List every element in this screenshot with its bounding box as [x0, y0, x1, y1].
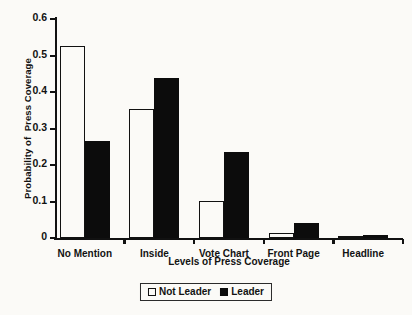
y-tick-label: 0.5	[32, 48, 47, 60]
bar-headline-not-leader	[338, 236, 363, 238]
bar-no-mention-not-leader	[60, 46, 85, 238]
legend-entry: Not Leader	[148, 286, 211, 297]
x-axis-title: Levels of Press Coverage	[55, 256, 403, 267]
y-axis-line	[55, 17, 57, 238]
bar-inside-not-leader	[129, 109, 154, 238]
bar-vote-chart-leader	[224, 152, 249, 238]
x-tick	[402, 239, 404, 244]
legend-label: Not Leader	[159, 286, 211, 297]
legend-label: Leader	[231, 286, 264, 297]
filled-square-icon	[220, 288, 228, 296]
chart-legend: Not LeaderLeader	[140, 283, 272, 301]
y-tick-label: 0.6	[32, 11, 47, 23]
y-tick: 0.2	[50, 164, 55, 166]
y-tick: 0.4	[50, 91, 55, 93]
x-tick	[123, 239, 125, 244]
y-tick-label: 0.3	[32, 121, 47, 133]
y-tick-label: 0.2	[32, 157, 47, 169]
y-tick-label: 0.4	[32, 84, 47, 96]
y-tick-label: 0	[41, 230, 47, 242]
y-tick: 0.5	[50, 55, 55, 57]
bar-no-mention-leader	[85, 141, 110, 238]
legend-entry: Leader	[220, 286, 264, 297]
bar-front-page-leader	[294, 223, 319, 238]
y-tick: 0	[50, 237, 55, 239]
open-square-icon	[148, 288, 156, 296]
plot-area: 00.10.20.30.40.50.6 No MentionInsideVote…	[55, 19, 403, 238]
bar-chart-figure: Probability of Press Coverage 00.10.20.3…	[0, 0, 412, 315]
x-tick	[193, 239, 195, 244]
y-tick: 0.6	[50, 18, 55, 20]
x-tick	[332, 239, 334, 244]
y-tick: 0.3	[50, 128, 55, 130]
x-tick	[263, 239, 265, 244]
y-tick-label: 0.1	[32, 194, 47, 206]
x-axis-line	[54, 238, 403, 240]
bar-headline-leader	[363, 235, 388, 238]
bar-front-page-not-leader	[269, 233, 294, 238]
y-tick: 0.1	[50, 201, 55, 203]
y-axis-title: Probability of Press Coverage	[22, 24, 33, 234]
bar-vote-chart-not-leader	[199, 201, 224, 238]
bar-inside-leader	[154, 78, 179, 238]
